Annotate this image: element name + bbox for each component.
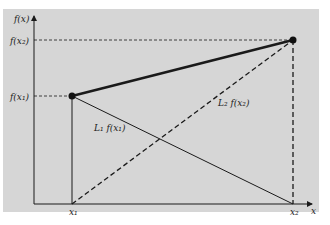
label-x2: x₂ bbox=[290, 207, 299, 217]
label-L2: L₂ f(x₂) bbox=[217, 98, 250, 108]
interpolation-diagram: f(x) x f(x₂) f(x₁) x₁ x₂ L₁ f(x₁) L₂ f(x… bbox=[0, 0, 330, 225]
label-x1: x₁ bbox=[69, 207, 78, 217]
label-f-x1: f(x₁) bbox=[9, 92, 30, 102]
label-f-x2: f(x₂) bbox=[9, 36, 30, 46]
line-L1 bbox=[72, 96, 293, 204]
interpolation-line bbox=[72, 40, 293, 96]
line-L2 bbox=[72, 40, 293, 204]
point-1 bbox=[69, 93, 76, 100]
point-2 bbox=[290, 37, 297, 44]
label-L1: L₁ f(x₁) bbox=[93, 123, 126, 133]
y-axis-label: f(x) bbox=[13, 14, 30, 24]
x-axis-label: x bbox=[311, 206, 316, 216]
